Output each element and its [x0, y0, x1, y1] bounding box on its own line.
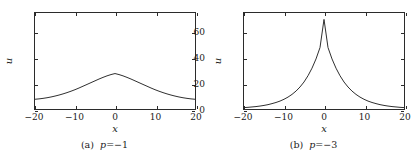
x-axis-title-b: x: [321, 124, 327, 134]
caption-prefix-a: (a): [81, 139, 94, 150]
x-tick-mark: [197, 106, 198, 109]
plot-axes-a: [34, 12, 196, 110]
caption-prefix-b: (b): [290, 139, 304, 150]
y-axis-title-b: u: [213, 58, 223, 64]
x-tick-label: 20: [399, 113, 410, 122]
y-tick-mark: [401, 33, 404, 34]
y-tick-mark: [401, 59, 404, 60]
x-tick-label: 0: [112, 113, 118, 122]
x-tick-mark: [35, 106, 36, 109]
caption-relation-a: =: [106, 139, 114, 150]
x-tick-label: −20: [234, 113, 253, 122]
y-tick-label: 60: [194, 27, 205, 36]
x-tick-mark: [116, 106, 117, 109]
y-tick-mark: [244, 59, 247, 60]
x-tick-mark: [157, 106, 158, 109]
x-tick-mark: [366, 13, 367, 16]
x-tick-label: 10: [150, 113, 161, 122]
y-tick-mark: [401, 85, 404, 86]
x-tick-mark: [35, 13, 36, 16]
x-tick-label: −20: [25, 113, 44, 122]
figure-container: −20−10010200204060 x u (a) p=−1 −20−1001…: [0, 0, 418, 160]
x-axis-title-a: x: [112, 124, 118, 134]
x-tick-mark: [406, 106, 407, 109]
x-tick-mark: [406, 13, 407, 16]
figure-panel-a: −20−10010200204060 x u (a) p=−1: [0, 0, 209, 160]
x-tick-mark: [197, 13, 198, 16]
x-tick-label: −10: [65, 113, 84, 122]
y-tick-mark: [35, 85, 38, 86]
x-tick-mark: [325, 13, 326, 16]
panel-caption-a: (a) p=−1: [0, 140, 209, 150]
x-tick-mark: [285, 13, 286, 16]
y-tick-label: 0: [199, 106, 205, 115]
x-tick-mark: [157, 13, 158, 16]
y-tick-mark: [35, 59, 38, 60]
y-tick-mark: [244, 85, 247, 86]
x-tick-label: 0: [321, 113, 327, 122]
x-tick-mark: [244, 13, 245, 16]
caption-value-b: −3: [323, 139, 337, 150]
x-tick-mark: [366, 106, 367, 109]
plot-curve-b: [244, 13, 404, 109]
x-tick-label: −10: [274, 113, 293, 122]
y-tick-label: 20: [194, 79, 205, 88]
x-tick-mark: [76, 13, 77, 16]
y-tick-mark: [35, 33, 38, 34]
plot-axes-b: [243, 12, 405, 110]
x-tick-mark: [76, 106, 77, 109]
y-axis-title-a: u: [4, 58, 14, 64]
caption-value-a: −1: [114, 139, 128, 150]
x-tick-mark: [285, 106, 286, 109]
y-tick-label: 40: [194, 53, 205, 62]
figure-panel-b: −20−10010200204060 x u (b) p=−3: [209, 0, 418, 160]
x-tick-mark: [116, 13, 117, 16]
y-tick-mark: [244, 33, 247, 34]
panel-caption-b: (b) p=−3: [209, 140, 418, 150]
x-tick-label: 10: [359, 113, 370, 122]
plot-curve-a: [35, 13, 195, 109]
x-tick-mark: [244, 106, 245, 109]
x-tick-mark: [325, 106, 326, 109]
